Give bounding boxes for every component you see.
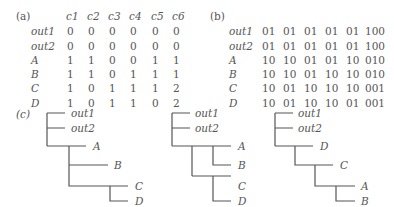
tree-diagrams [0,0,394,207]
